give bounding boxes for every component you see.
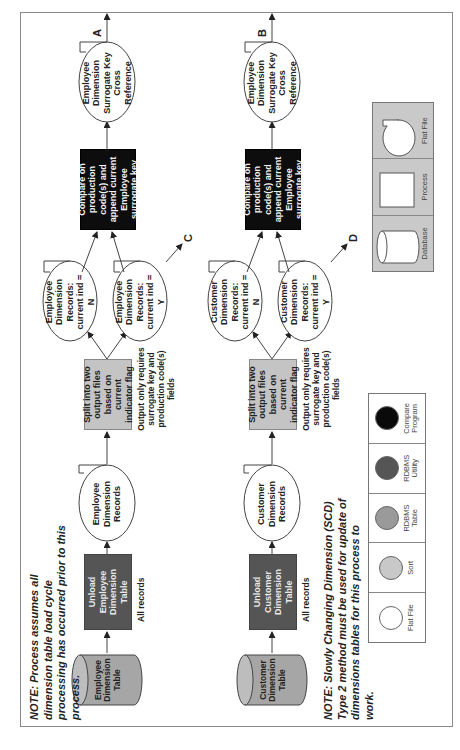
flat-file-swatch-icon: [379, 606, 403, 630]
customer-split-process: Split into two output files based on cur…: [249, 359, 297, 430]
diagram-stage: Employee Dimension Table Unload Employee…: [0, 0, 460, 750]
connector-d: D: [347, 234, 359, 242]
customer-file-y: Customer Dimension Records: current ind …: [283, 271, 327, 333]
legend-label: Compare Program: [403, 398, 420, 438]
customer-unload-note: All records: [301, 578, 311, 622]
customer-source-table: Customer Dimension Table: [249, 657, 297, 703]
customer-split-note: Output only requires surrogate key and p…: [301, 347, 341, 431]
employee-unload-note: All records: [136, 578, 146, 622]
legend-sort: Sort: [369, 542, 425, 592]
employee-file-y: Employee Dimension Records: current ind …: [118, 271, 162, 333]
employee-unload-process: Unload Employee Dimension Table: [84, 554, 132, 630]
rdbms-table-swatch-icon: [375, 506, 399, 530]
customer-compare-process: Compare on production code(s) and append…: [245, 149, 301, 230]
employee-output-file: Employee Dimension Surrogate Key Cross R…: [84, 50, 130, 116]
employee-source-table: Employee Dimension Table: [84, 657, 132, 703]
legend-flat-file: Flat File: [369, 592, 425, 642]
customer-unload-process: Unload Customer Dimension Table: [249, 554, 297, 630]
note-top: NOTE: Process assumes all dimension tabl…: [28, 520, 82, 720]
employee-records-file: Employee Dimension Records: [88, 473, 126, 535]
customer-file-n: Customer Dimension Records: current ind …: [213, 271, 257, 333]
employee-split-process: Split into two output files based on cur…: [84, 359, 132, 430]
employee-split-note: Output only requires surrogate key and p…: [136, 347, 176, 431]
customer-output-file: Employee Dimension Surrogate Key Cross R…: [249, 50, 295, 116]
connector-b: B: [256, 29, 268, 37]
legend-label: Process: [420, 173, 429, 200]
rdbms-utility-swatch-icon: [375, 456, 399, 480]
compare-program-swatch-icon: [375, 406, 399, 430]
sort-swatch-icon: [379, 556, 403, 580]
legend-rdbms-table: RDBMS Table: [369, 493, 425, 543]
legend-flat-file-shape: Flat File: [373, 103, 433, 158]
legend-process: Process: [373, 158, 433, 214]
customer-records-file: Customer Dimension Records: [253, 473, 291, 535]
legend-label: Flat File: [407, 604, 416, 631]
connector-c: C: [182, 234, 194, 242]
legend-label: RDBMS Table: [403, 501, 420, 535]
legend-compare-program: Compare Program: [369, 394, 425, 443]
legend-label: RDBMS Utility: [403, 451, 420, 485]
shape-legend: Database Process Flat File: [372, 102, 434, 272]
legend-label: Flat File: [420, 117, 429, 144]
employee-compare-process: Compare on production code(s) and append…: [80, 149, 136, 230]
legend-rdbms-utility: RDBMS Utility: [369, 443, 425, 493]
color-legend: Flat File Sort RDBMS Table RDBMS Utility…: [368, 393, 426, 643]
employee-file-n: Employee Dimension Records: current ind …: [48, 271, 92, 333]
legend-label: Sort: [407, 561, 416, 575]
legend-label: Database: [420, 227, 429, 259]
connector-a: A: [91, 29, 103, 37]
legend-database: Database: [373, 215, 433, 271]
